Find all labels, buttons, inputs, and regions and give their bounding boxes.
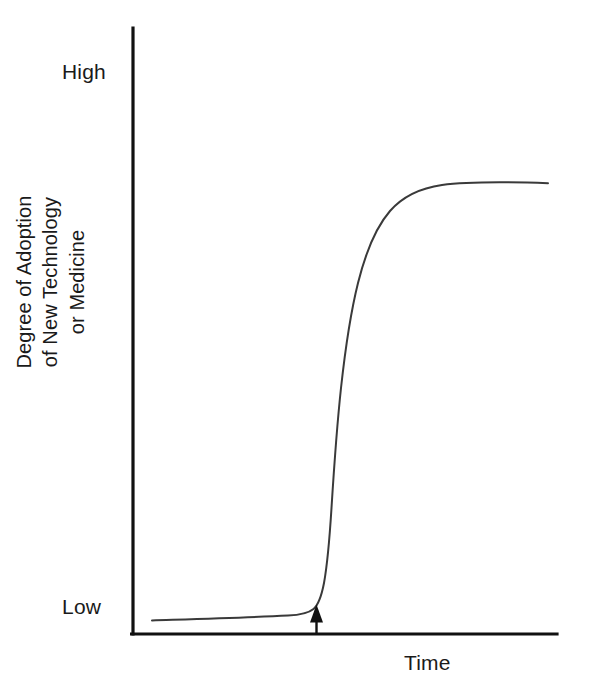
- y-axis-title-line-2: of New Technology: [39, 197, 63, 367]
- adoption-s-curve: [152, 182, 548, 620]
- y-axis-tick-low: Low: [62, 596, 101, 617]
- y-axis-title-line-1: Degree of Adoption: [13, 195, 37, 368]
- technology-adoption-chart: High Low Degree of Adoption of New Techn…: [0, 0, 597, 694]
- up-arrow-marker: [310, 605, 323, 635]
- y-axis-title-line-3: or Medicine: [66, 230, 90, 334]
- x-axis-title: Time: [404, 652, 451, 673]
- y-axis-tick-high: High: [62, 61, 106, 82]
- y-axis-title: Degree of Adoption of New Technology or …: [11, 167, 91, 397]
